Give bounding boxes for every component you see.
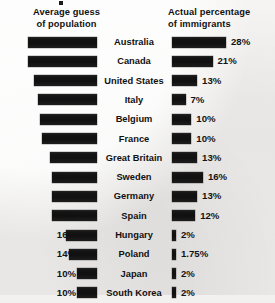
- chart-row: 23%Spain12%: [0, 207, 275, 226]
- actual-bar-track: [172, 249, 176, 260]
- actual-bar-track: [172, 75, 197, 86]
- actual-bar-track: [172, 191, 197, 202]
- chart-row: 24%Great Britain13%: [0, 149, 275, 168]
- guess-bar: [38, 94, 97, 105]
- guess-bar-track: [0, 133, 97, 144]
- guess-bar-track: [0, 287, 97, 298]
- guess-bar-track: [0, 172, 97, 183]
- guess-bar-track: [0, 56, 97, 67]
- country-label: Great Britain: [99, 152, 169, 164]
- country-label: Australia: [99, 36, 169, 48]
- actual-bar-track: [172, 230, 176, 241]
- actual-bar: [172, 287, 176, 298]
- chart-row: 30%Italy7%: [0, 91, 275, 110]
- guess-bar-track: [0, 210, 97, 221]
- chart-row: 23%Germany13%: [0, 187, 275, 206]
- actual-bar: [172, 56, 213, 67]
- actual-bar-track: [172, 37, 226, 48]
- country-label: France: [99, 133, 169, 145]
- guess-bar: [34, 75, 97, 86]
- actual-value-label: 21%: [218, 55, 237, 67]
- guess-bar: [66, 230, 98, 241]
- actual-bar: [172, 210, 195, 221]
- guess-bar: [52, 191, 97, 202]
- country-label: United States: [99, 75, 169, 87]
- chart-row: 14%Poland1.75%: [0, 245, 275, 264]
- country-label: Japan: [99, 268, 169, 280]
- chart-row: 23%Sweden16%: [0, 168, 275, 187]
- guess-bar: [40, 114, 97, 125]
- guess-bar: [28, 37, 97, 48]
- country-label: Poland: [99, 248, 169, 260]
- actual-bar-track: [172, 268, 176, 279]
- right-column-header: Actual percentage of immigrants: [168, 6, 275, 31]
- guess-bar-track: [0, 75, 97, 86]
- actual-value-label: 13%: [202, 75, 221, 87]
- guess-bar: [42, 133, 97, 144]
- guess-bar-track: [0, 268, 97, 279]
- country-label: Hungary: [99, 229, 169, 241]
- actual-bar: [172, 37, 226, 48]
- left-column-header: Average guess of population: [0, 6, 133, 31]
- country-label: South Korea: [99, 287, 169, 299]
- guess-bar: [52, 172, 97, 183]
- chart-row: 16%Hungary2%: [0, 226, 275, 245]
- actual-bar-track: [172, 210, 195, 221]
- country-label: Canada: [99, 55, 169, 67]
- country-label: Sweden: [99, 171, 169, 183]
- actual-value-label: 7%: [191, 94, 205, 106]
- actual-bar-track: [172, 133, 191, 144]
- chart-row: 28%France10%: [0, 130, 275, 149]
- country-label: Italy: [99, 94, 169, 106]
- actual-value-label: 13%: [202, 152, 221, 164]
- guess-bar: [52, 210, 97, 221]
- actual-value-label: 16%: [208, 171, 227, 183]
- actual-bar-track: [172, 94, 186, 105]
- left-header-line2: of population: [0, 18, 133, 30]
- chart-row: 35%Australia28%: [0, 33, 275, 52]
- actual-bar: [172, 230, 176, 241]
- guess-bar-track: [0, 249, 97, 260]
- guess-bar: [77, 268, 97, 279]
- actual-bar: [172, 114, 191, 125]
- actual-value-label: 2%: [181, 229, 195, 241]
- chart-row: 29%Belgium10%: [0, 110, 275, 129]
- chart-row: 32%United States13%: [0, 72, 275, 91]
- actual-value-label: 12%: [200, 210, 219, 222]
- guess-bar-track: [0, 152, 97, 163]
- chart-row: 10%Japan2%: [0, 265, 275, 284]
- chart-row: 10%South Korea2%: [0, 284, 275, 303]
- actual-value-label: 10%: [196, 113, 215, 125]
- actual-value-label: 10%: [196, 133, 215, 145]
- guess-bar-track: [0, 94, 97, 105]
- actual-bar: [172, 191, 197, 202]
- left-header-line1: Average guess: [0, 6, 133, 18]
- actual-value-label: 13%: [202, 190, 221, 202]
- actual-bar: [172, 249, 176, 260]
- actual-bar: [172, 94, 186, 105]
- actual-bar-track: [172, 172, 203, 183]
- guess-bar: [69, 249, 97, 260]
- chart-headers: Average guess of population Actual perce…: [0, 6, 275, 32]
- guess-bar-track: [0, 191, 97, 202]
- guess-bar: [50, 152, 97, 163]
- actual-bar-track: [172, 114, 191, 125]
- actual-value-label: 2%: [181, 287, 195, 299]
- actual-bar: [172, 268, 176, 279]
- guess-bar-track: [0, 37, 97, 48]
- guess-bar-track: [0, 230, 97, 241]
- actual-value-label: 1.75%: [181, 248, 208, 260]
- actual-bar-track: [172, 56, 213, 67]
- chart-row: 35%Canada21%: [0, 52, 275, 71]
- country-label: Spain: [99, 210, 169, 222]
- country-label: Germany: [99, 190, 169, 202]
- guess-bar: [77, 287, 97, 298]
- actual-value-label: 2%: [181, 268, 195, 280]
- guess-bar: [28, 56, 97, 67]
- actual-bar: [172, 172, 203, 183]
- actual-bar-track: [172, 152, 197, 163]
- right-header-line1: Actual percentage: [168, 6, 275, 18]
- actual-bar: [172, 75, 197, 86]
- actual-bar: [172, 133, 191, 144]
